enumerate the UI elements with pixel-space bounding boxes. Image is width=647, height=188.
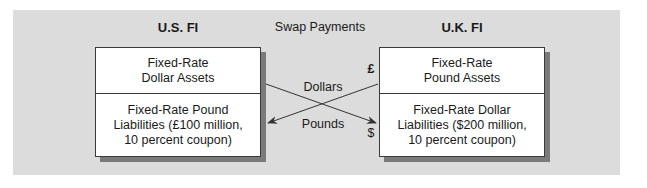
dollars-label: Dollars <box>298 80 348 94</box>
dollar-symbol: $ <box>365 126 377 140</box>
swap-flow-arrows <box>0 0 647 188</box>
pound-symbol: £ <box>365 62 377 76</box>
pounds-label: Pounds <box>298 117 348 131</box>
